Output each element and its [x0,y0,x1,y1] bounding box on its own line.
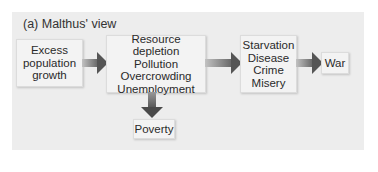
node-poverty: Poverty [133,119,175,139]
node-line: Disease [243,52,295,65]
node-line: War [325,57,346,70]
node-line: growth [23,69,76,82]
node-line: Unemployment [107,83,205,96]
node-line: Starvation [243,39,295,52]
node-line: Excess [23,44,76,57]
node-resource-depletion: Resource depletion Pollution Overcrowdin… [106,35,206,93]
node-line: Resource depletion [107,33,205,58]
node-starvation: Starvation Disease Crime Misery [240,35,297,93]
node-war: War [321,52,349,74]
node-line: Misery [243,77,295,90]
node-excess-population-growth: Excess population growth [16,39,83,87]
node-line: population [23,57,76,70]
node-line: Poverty [135,123,174,136]
diagram-panel: (a) Malthus' view Excess population grow… [12,12,364,150]
diagram-title: (a) Malthus' view [23,17,116,31]
arrow-resource-to-starvation [205,59,232,67]
arrow-resource-to-poverty [148,92,156,108]
node-line: Overcrowding [107,70,205,83]
arrow-starvation-to-war [296,59,313,67]
node-line: Crime [243,64,295,77]
arrow-excess-to-resource [82,59,98,67]
node-line: Pollution [107,58,205,71]
